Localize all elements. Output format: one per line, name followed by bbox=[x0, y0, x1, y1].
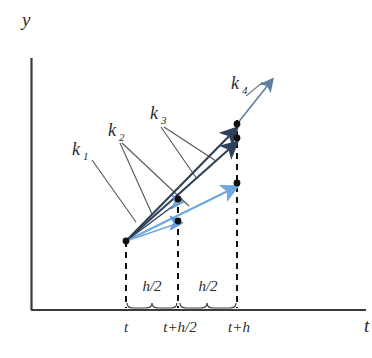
vector-k2-short-stem bbox=[126, 203, 177, 241]
k3-subscript: 3 bbox=[160, 114, 167, 126]
rk4-slope-diagram: y t k 1 k 2 k 3 k 4 bbox=[0, 0, 372, 358]
brace-first-half-step bbox=[127, 303, 177, 308]
k4-subscript: 4 bbox=[242, 84, 248, 96]
label-k1: k 1 bbox=[72, 139, 89, 162]
k2-subscript: 2 bbox=[119, 131, 125, 143]
leader-line-k3-a bbox=[161, 127, 197, 179]
k1-subscript: 1 bbox=[83, 150, 89, 162]
label-k3: k 3 bbox=[150, 103, 167, 126]
label-k2: k 2 bbox=[108, 120, 125, 143]
vector-k3-light bbox=[126, 187, 236, 241]
dot-origin bbox=[123, 238, 130, 245]
dot-end-light bbox=[234, 180, 241, 187]
brace-second-half-step bbox=[180, 303, 236, 308]
k2-base: k bbox=[108, 120, 117, 140]
label-k4: k 4 bbox=[231, 73, 248, 96]
dot-end-mid bbox=[234, 135, 241, 142]
dot-mid-upper bbox=[175, 196, 182, 203]
leader-line-k1 bbox=[92, 160, 136, 222]
k1-base: k bbox=[72, 139, 81, 159]
tick-label-t-plus-h: t+h bbox=[228, 319, 250, 335]
y-axis-label: y bbox=[20, 9, 31, 30]
dot-mid-lower bbox=[175, 218, 182, 225]
span-label-first-half-step: h/2 bbox=[142, 278, 162, 294]
k4-base: k bbox=[231, 73, 240, 93]
x-axis-label: t bbox=[364, 315, 370, 336]
tick-label-t: t bbox=[124, 319, 129, 335]
leader-line-k2-a bbox=[120, 143, 152, 214]
tick-label-t-plus-h-half: t+h/2 bbox=[163, 319, 197, 335]
k3-base: k bbox=[150, 103, 159, 123]
span-label-second-half-step: h/2 bbox=[198, 278, 218, 294]
dot-end-upper bbox=[234, 121, 241, 128]
